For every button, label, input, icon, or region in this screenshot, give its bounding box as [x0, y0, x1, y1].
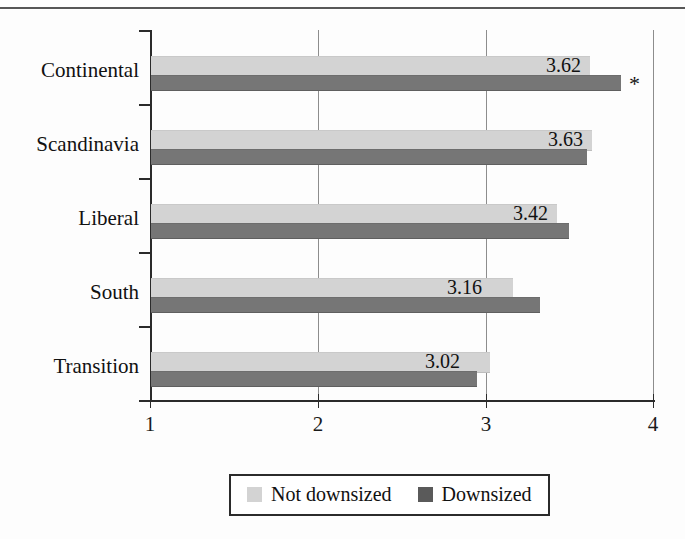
value-label-not-downsized-continental: 3.62 — [546, 54, 581, 77]
y-axis-label-continental: Continental — [0, 60, 139, 81]
x-axis-tick-mark-3 — [486, 394, 487, 408]
page-rule-divider — [0, 7, 685, 9]
legend-swatch-icon-not-downsized — [247, 487, 262, 502]
x-axis-tick-label-3: 3 — [466, 412, 506, 437]
chart-legend: Not downsized Downsized — [229, 474, 550, 516]
y-axis-tick-1 — [139, 104, 151, 106]
legend-label-downsized: Downsized — [442, 483, 532, 506]
y-axis-label-liberal: Liberal — [0, 208, 139, 229]
x-axis-tick-mark-1 — [150, 394, 151, 408]
x-axis-tick-mark-4 — [653, 394, 654, 408]
bar-downsized-south — [151, 297, 540, 313]
y-axis-tick-0 — [139, 30, 151, 32]
y-axis-tick-3 — [139, 252, 151, 254]
x-axis-tick-mark-2 — [318, 394, 319, 408]
legend-entry-downsized: Downsized — [418, 483, 532, 506]
y-axis-label-scandinavia: Scandinavia — [0, 134, 139, 155]
bar-not-downsized-scandinavia — [151, 130, 592, 151]
legend-swatch-icon-downsized — [418, 487, 433, 502]
gridline-4 — [653, 30, 654, 400]
value-label-not-downsized-scandinavia: 3.63 — [548, 128, 583, 151]
x-axis-tick-label-4: 4 — [633, 412, 673, 437]
bar-not-downsized-liberal — [151, 204, 557, 225]
legend-label-not-downsized: Not downsized — [271, 483, 392, 506]
value-label-not-downsized-liberal: 3.42 — [513, 202, 548, 225]
x-axis-tick-label-1: 1 — [130, 412, 170, 437]
significance-asterisk-continental: * — [629, 73, 640, 95]
value-label-not-downsized-transition: 3.02 — [425, 350, 460, 373]
chart-figure: Continental Scandinavia Liberal South Tr… — [0, 0, 685, 539]
legend-entry-not-downsized: Not downsized — [247, 483, 392, 506]
y-axis-label-transition: Transition — [0, 356, 139, 377]
bar-downsized-scandinavia — [151, 149, 587, 165]
bar-not-downsized-continental — [151, 56, 590, 77]
x-axis-line — [150, 400, 655, 402]
bar-downsized-continental — [151, 75, 621, 91]
x-axis-tick-label-2: 2 — [298, 412, 338, 437]
value-label-not-downsized-south: 3.16 — [447, 276, 482, 299]
bar-downsized-liberal — [151, 223, 569, 239]
plot-area: 1 2 3 4 3.62 * 3.63 3.42 3.16 3.02 — [150, 30, 653, 400]
y-axis-label-south: South — [0, 282, 139, 303]
bar-downsized-transition — [151, 371, 477, 387]
y-axis-tick-2 — [139, 178, 151, 180]
y-axis-tick-4 — [139, 326, 151, 328]
